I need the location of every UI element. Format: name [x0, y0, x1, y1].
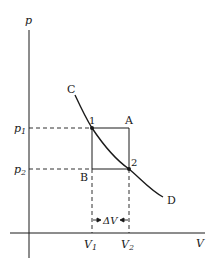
curve-start-label: C — [67, 83, 75, 96]
v1-tick-label: V1 — [84, 238, 97, 252]
p2-tick-label: p2 — [14, 163, 26, 177]
corner-a-label: A — [124, 114, 134, 127]
delta-v-label: ΔV — [102, 215, 119, 226]
y-axis-label: p — [25, 14, 32, 27]
isotherm-curve — [75, 95, 163, 197]
point-2-label: 2 — [131, 157, 137, 168]
x-axis-label: V — [196, 237, 205, 250]
arrowhead-right-icon — [97, 218, 101, 222]
corner-b-label: B — [80, 171, 88, 184]
p1-tick-label: p1 — [14, 122, 26, 136]
point-1-marker — [90, 126, 94, 130]
curve-end-label: D — [167, 194, 176, 207]
arrowhead-left-icon — [120, 218, 124, 222]
v2-tick-label: V2 — [121, 238, 134, 252]
pv-diagram: p V C D 1 2 A B p1 p2 V1 V2 ΔV — [0, 0, 218, 265]
point-1-label: 1 — [89, 115, 95, 126]
